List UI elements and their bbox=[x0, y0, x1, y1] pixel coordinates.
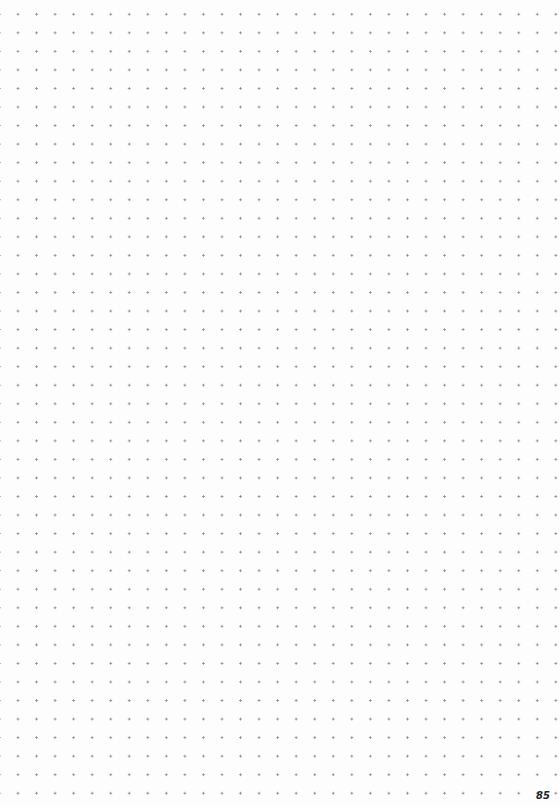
dot-grid-page: 85 bbox=[0, 0, 560, 807]
page-number: 85 bbox=[536, 790, 550, 801]
